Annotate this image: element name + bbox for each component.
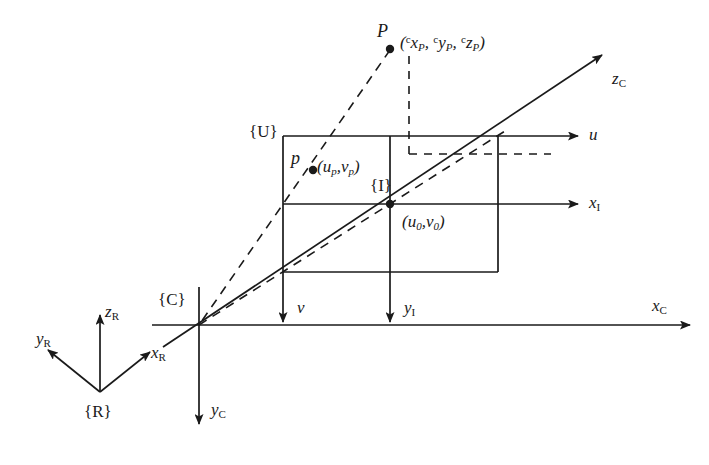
image-point-marker — [309, 166, 317, 174]
camera-frame-label: {C} — [158, 291, 186, 308]
world-point-marker — [386, 45, 394, 53]
camera-projection-diagram: P (cxP, cyP, czP) zC {U} u p (up,vp) {I}… — [0, 0, 709, 465]
img-coord-sub-2: p — [348, 165, 354, 177]
axis-v-label: v — [297, 299, 305, 316]
axis-z-c-label: zC — [612, 70, 626, 87]
pp-coord-var-1: u — [408, 212, 417, 231]
axis-x-i-label: xI — [589, 194, 600, 211]
axis-y-r-label: yR — [36, 330, 51, 347]
pp-coord-sub-1: 0 — [416, 220, 422, 232]
diagram-canvas — [0, 0, 709, 465]
principal-point-coords: (u0,v0) — [402, 213, 445, 230]
reference-axes-group — [48, 315, 150, 392]
coord-close: ) — [479, 33, 485, 52]
principal-point-marker — [386, 200, 394, 208]
axis-y-c-label: yC — [211, 401, 226, 418]
world-point-coords: (cxP, cyP, czP) — [400, 34, 485, 51]
image-point-label: p — [291, 149, 300, 167]
image-point-coords: (up,vp) — [317, 158, 360, 175]
pp-coord-close: ) — [439, 212, 445, 231]
axis-y-i-var: y — [404, 298, 412, 317]
coord-sub-2: P — [446, 41, 453, 53]
axis-u-var: u — [589, 125, 598, 144]
projection-ray-p-to-c — [199, 50, 390, 325]
coord-open: ( — [400, 33, 406, 52]
axis-y-i-sub: I — [412, 306, 416, 318]
axis-y-r-sub: R — [44, 337, 51, 349]
reference-frame-label: {R} — [84, 403, 112, 420]
axis-z-c-var: z — [612, 69, 619, 88]
coord-sup-3: c — [461, 33, 466, 45]
coord-sub-1: P — [418, 41, 425, 53]
axis-x-r-label: xR — [151, 344, 166, 361]
axis-x-c-label: xC — [652, 297, 667, 314]
axis-x-c-var: x — [652, 296, 660, 315]
coord-sup-1: c — [406, 33, 411, 45]
axis-z-c-sub: C — [619, 77, 626, 89]
coord-sub-3: P — [473, 41, 480, 53]
coord-var-3: z — [466, 33, 473, 52]
coord-sep-2: , — [453, 33, 462, 52]
coord-var-1: x — [411, 33, 419, 52]
axis-x-r-var: x — [151, 343, 159, 362]
axis-x-i-var: x — [589, 193, 597, 212]
pp-coord-sub-2: 0 — [433, 220, 439, 232]
axis-z-r-var: z — [105, 302, 112, 321]
axis-y-c-var: y — [211, 400, 219, 419]
img-coord-close: ) — [354, 157, 360, 176]
axis-x-i-sub: I — [597, 201, 601, 213]
coord-sup-2: c — [433, 33, 438, 45]
image-frame-label: {I} — [370, 177, 392, 194]
coord-var-2: y — [438, 33, 446, 52]
img-coord-var-1: u — [323, 157, 332, 176]
axis-y-c-sub: C — [219, 408, 226, 420]
world-point-label: P — [377, 22, 388, 40]
axis-x-r-sub: R — [159, 351, 166, 363]
camera-axes-group — [152, 55, 690, 424]
axis-y-r-line — [48, 350, 100, 392]
axis-y-i-label: yI — [404, 299, 415, 316]
axis-v-var: v — [297, 298, 305, 317]
axis-x-r-line — [100, 352, 150, 392]
axis-z-r-sub: R — [112, 310, 119, 322]
axis-z-r-label: zR — [105, 303, 119, 320]
axis-x-c-sub: C — [660, 304, 667, 316]
pixel-frame-label: {U} — [249, 123, 278, 140]
img-coord-sub-1: p — [331, 165, 337, 177]
axis-z-c-line — [163, 55, 602, 347]
axis-u-label: u — [589, 126, 598, 143]
axis-y-r-var: y — [36, 329, 44, 348]
